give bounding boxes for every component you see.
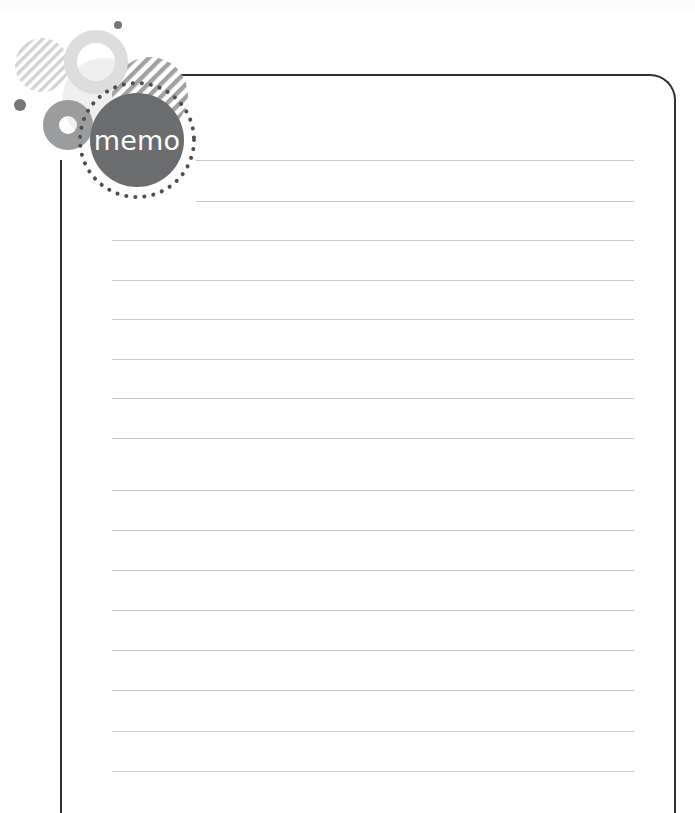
ruled-line: [112, 610, 634, 611]
ruled-line: [112, 570, 634, 571]
accent-dot-left-icon: [14, 99, 26, 111]
ruled-line: [196, 160, 634, 161]
ruled-line: [112, 319, 634, 320]
ruled-line: [112, 771, 634, 772]
memo-badge: memo: [90, 93, 184, 187]
striped-circle-small-icon: [15, 38, 69, 92]
ruled-line: [196, 201, 634, 202]
ruled-line: [112, 650, 634, 651]
ruled-line: [112, 398, 634, 399]
ruled-line: [112, 530, 634, 531]
memo-page: memo: [0, 0, 695, 813]
ruled-line: [112, 690, 634, 691]
ruled-line: [112, 731, 634, 732]
accent-dot-top-fill-icon: [114, 21, 122, 29]
ruled-line: [112, 490, 634, 491]
ruled-line: [112, 280, 634, 281]
ruled-line: [112, 359, 634, 360]
ruled-line: [112, 240, 634, 241]
ruled-line: [112, 438, 634, 439]
memo-badge-label: memo: [94, 127, 181, 154]
note-left-rule: [60, 160, 62, 813]
